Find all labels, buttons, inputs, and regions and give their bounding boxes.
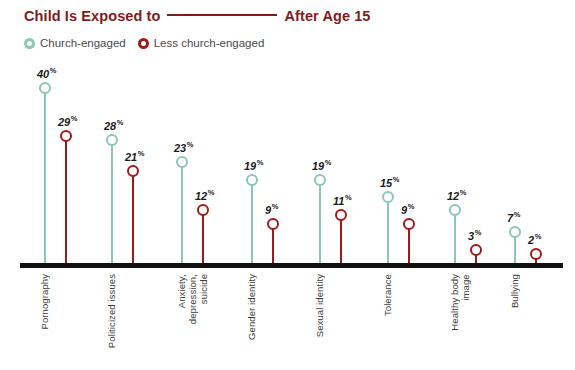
stem-church-engaged-2 [181,162,183,263]
data-value-label: 2% [528,232,541,246]
category-label-5: Tolerance [382,274,393,316]
data-point-marker[interactable] [60,130,72,142]
data-value-label: 12% [447,188,466,202]
data-value-label: 23% [174,140,193,154]
data-point-marker[interactable] [197,204,209,216]
category-label-4: Sexual identity [314,274,325,337]
data-value-label: 7% [507,210,520,224]
data-value-label: 12% [195,188,214,202]
data-point-marker[interactable] [509,226,521,238]
stem-church-engaged-0 [44,88,46,263]
data-value-label: 15% [380,175,399,189]
data-point-marker[interactable] [449,204,461,216]
stem-less-church-engaged-4 [340,215,342,263]
axis-baseline [20,263,563,268]
plot-area: 40%29%Pornography28%21%Politicized issue… [0,0,575,370]
stem-church-engaged-3 [251,180,253,263]
data-value-label: 28% [104,118,123,132]
data-point-marker[interactable] [267,218,279,230]
category-label-1: Politicized issues [106,274,117,348]
data-value-label: 40% [37,66,56,80]
data-point-marker[interactable] [127,165,139,177]
stem-church-engaged-1 [111,140,113,263]
data-point-marker[interactable] [246,174,258,186]
data-value-label: 21% [125,149,144,163]
data-value-label: 19% [312,158,331,172]
category-label-3: Gender identity [246,274,257,340]
data-value-label: 19% [244,158,263,172]
category-label-2: Anxiety, depression, suicide [176,274,209,324]
data-point-marker[interactable] [314,174,326,186]
data-value-label: 11% [333,193,352,207]
data-point-marker[interactable] [530,248,542,260]
data-value-label: 29% [58,114,77,128]
category-label-7: Bullying [509,274,520,308]
stem-less-church-engaged-2 [202,210,204,263]
stem-church-engaged-4 [319,180,321,263]
stem-church-engaged-6 [454,210,456,263]
category-label-0: Pornography [39,274,50,330]
data-value-label: 9% [265,202,278,216]
data-point-marker[interactable] [403,218,415,230]
data-point-marker[interactable] [470,244,482,256]
data-point-marker[interactable] [382,191,394,203]
category-label-6: Healthy body image [449,274,471,331]
data-point-marker[interactable] [176,156,188,168]
stem-less-church-engaged-0 [65,136,67,263]
stem-less-church-engaged-1 [132,171,134,263]
stem-church-engaged-5 [387,197,389,263]
data-point-marker[interactable] [39,82,51,94]
chart-root: Child Is Exposed to After Age 15 Church-… [0,0,575,370]
data-value-label: 9% [401,202,414,216]
data-value-label: 3% [468,228,481,242]
data-point-marker[interactable] [106,134,118,146]
data-point-marker[interactable] [335,209,347,221]
